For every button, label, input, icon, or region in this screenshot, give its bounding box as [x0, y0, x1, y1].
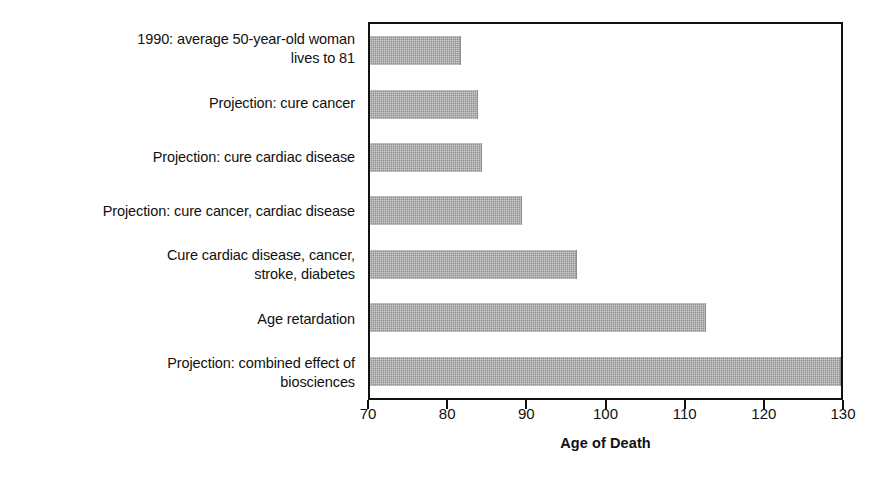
- category-label: Projection: cure cancer: [209, 94, 355, 113]
- bar-row: [370, 184, 841, 237]
- bar: [370, 90, 478, 119]
- bar-row: [370, 131, 841, 184]
- x-axis-tick-label: 100: [593, 404, 618, 424]
- bar: [370, 143, 482, 172]
- bar: [370, 250, 577, 279]
- plot-area: [368, 22, 843, 400]
- bar-row: [370, 238, 841, 291]
- bar-row: [370, 345, 841, 398]
- category-label-row: Projection: cure cardiac disease: [0, 130, 362, 184]
- category-label: 1990: average 50-year-old woman lives to…: [137, 30, 355, 68]
- bar: [370, 303, 706, 332]
- x-axis-tick-label: 70: [360, 404, 377, 424]
- bar: [370, 196, 522, 225]
- category-axis-labels: 1990: average 50-year-old woman lives to…: [0, 22, 362, 400]
- category-label: Cure cardiac disease, cancer, stroke, di…: [167, 246, 355, 284]
- category-label-row: Projection: cure cancer: [0, 76, 362, 130]
- bar-row: [370, 291, 841, 344]
- bar-row: [370, 77, 841, 130]
- x-axis-tick-label: 130: [830, 404, 855, 424]
- x-axis-tick-label: 120: [751, 404, 776, 424]
- category-label: Projection: cure cardiac disease: [153, 148, 355, 167]
- category-label: Projection: combined effect of bioscienc…: [167, 354, 355, 392]
- x-axis-tick-label: 110: [673, 404, 697, 424]
- category-label-row: Projection: combined effect of bioscienc…: [0, 346, 362, 400]
- bar: [370, 36, 461, 65]
- x-axis-title: Age of Death: [368, 435, 843, 451]
- x-axis-tick-labels: 708090100110120130: [368, 404, 843, 428]
- category-label: Age retardation: [257, 310, 355, 329]
- category-label-row: Cure cardiac disease, cancer, stroke, di…: [0, 238, 362, 292]
- category-label-row: Age retardation: [0, 292, 362, 346]
- category-label: Projection: cure cancer, cardiac disease: [103, 202, 355, 221]
- bar-row: [370, 24, 841, 77]
- x-axis-tick-label: 80: [439, 404, 456, 424]
- x-axis-tick-label: 90: [518, 404, 535, 424]
- category-label-row: 1990: average 50-year-old woman lives to…: [0, 22, 362, 76]
- bars-layer: [370, 24, 841, 398]
- bar: [370, 357, 841, 386]
- category-label-row: Projection: cure cancer, cardiac disease: [0, 184, 362, 238]
- bar-chart: 1990: average 50-year-old woman lives to…: [0, 0, 883, 484]
